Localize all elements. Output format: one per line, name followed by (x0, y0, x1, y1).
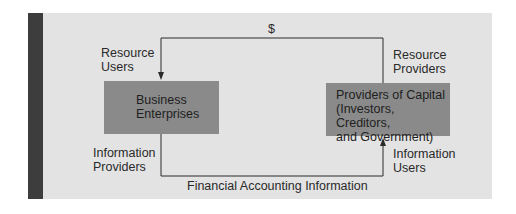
financial-accounting-information-label: Financial Accounting Information (187, 179, 368, 193)
providers-of-capital-box: Providers of Capital (Investors, Credito… (326, 83, 450, 136)
money-flow-label: $ (268, 22, 275, 36)
resource-users-label: Resource Users (101, 46, 155, 74)
information-providers-label: Information Providers (93, 146, 156, 174)
money-flow-arrowhead-icon (158, 72, 164, 80)
business-enterprises-box: Business Enterprises (104, 81, 219, 134)
information-users-label: Information Users (393, 147, 456, 175)
money-flow-line (161, 38, 383, 83)
resource-providers-label: Resource Providers (393, 48, 447, 76)
